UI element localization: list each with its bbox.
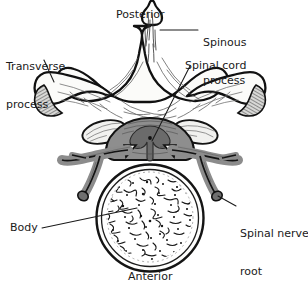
leader-spinal-nerve-root: [218, 196, 236, 206]
label-spinous-process-line2: process: [203, 75, 246, 88]
vertebra-diagram: Posterior Spinous process Transverse pro…: [0, 0, 308, 290]
label-anterior: Anterior: [128, 271, 172, 284]
vertebral-body: [97, 165, 204, 272]
label-spinal-nerve-root-line2: root: [240, 266, 308, 279]
label-spinal-nerve-root: Spinal nerve root: [240, 203, 308, 290]
label-body: Body: [10, 222, 38, 235]
label-transverse-process: Transverse process: [6, 36, 65, 136]
label-spinal-cord: Spinal cord: [185, 60, 246, 73]
label-transverse-process-line2: process: [6, 99, 65, 112]
label-posterior: Posterior: [116, 9, 165, 22]
label-transverse-process-line1: Transverse: [6, 61, 65, 74]
label-spinal-nerve-root-line1: Spinal nerve: [240, 228, 308, 241]
label-spinous-process-line1: Spinous: [203, 37, 246, 50]
